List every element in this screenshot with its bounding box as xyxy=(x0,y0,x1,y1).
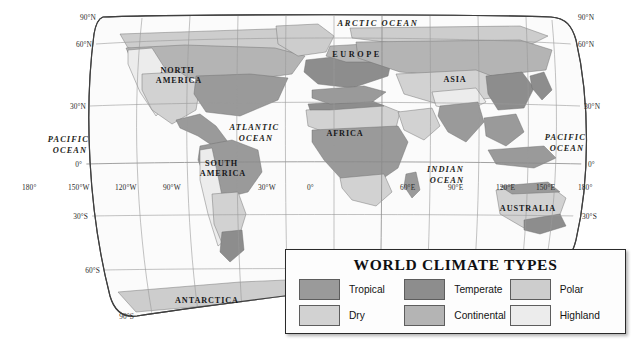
continent-label-north-america: NORTH AMERICA xyxy=(156,66,202,85)
ocean-label-arctic-ocean: ARCTIC OCEAN xyxy=(337,19,419,28)
legend-swatch-dry xyxy=(299,305,340,326)
legend-item-polar[interactable]: Polar xyxy=(510,279,615,300)
lat-label-30S-left: 30°S xyxy=(73,212,88,221)
lat-label-90S-left: 90°S xyxy=(119,312,134,321)
continent-label-south-america: SOUTH AMERICA xyxy=(200,159,246,178)
legend-title: WORLD CLIMATE TYPES xyxy=(286,256,625,274)
legend-items: Tropical Temperate Polar Dry Continental xyxy=(286,279,625,326)
lat-label-30S-right: 30°S xyxy=(582,212,597,221)
ocean-label-pacific-ocean-west: PACIFIC OCEAN xyxy=(48,135,92,155)
legend-label-polar: Polar xyxy=(560,284,584,295)
lon-label-150W: 150°W xyxy=(68,183,90,192)
lon-label-120W: 120°W xyxy=(115,183,137,192)
lon-label-120E: 120°E xyxy=(496,183,515,192)
land-new-zealand xyxy=(582,220,598,242)
lon-label-90W: 90°W xyxy=(163,183,181,192)
lat-label-60S-left: 60°S xyxy=(85,266,100,275)
legend-item-dry[interactable]: Dry xyxy=(299,305,404,326)
lon-label-0: 0° xyxy=(307,183,314,192)
lat-label-90N-left: 90°N xyxy=(80,13,97,22)
lon-label-150E: 150°E xyxy=(536,183,555,192)
legend-label-highland: Highland xyxy=(560,310,600,321)
continent-label-australia: AUSTRALIA xyxy=(500,204,556,213)
legend-swatch-continental xyxy=(404,305,445,326)
lat-label-60N-left: 60°N xyxy=(76,40,93,49)
legend-item-highland[interactable]: Highland xyxy=(510,305,615,326)
lat-label-0-left: 0° xyxy=(75,160,82,169)
legend-item-temperate[interactable]: Temperate xyxy=(404,279,509,300)
lat-label-90N-right: 90°N xyxy=(578,13,595,22)
lon-label-180-left: 180° xyxy=(22,183,36,192)
lon-label-180-right: 180° xyxy=(578,183,592,192)
lon-label-60E: 60°E xyxy=(400,183,416,192)
legend-swatch-tropical xyxy=(299,279,340,300)
lat-label-0-right: 0° xyxy=(588,160,595,169)
continent-label-antarctica: ANTARCTICA xyxy=(175,296,239,305)
continent-label-europe: EUROPE xyxy=(332,50,382,59)
legend-item-tropical[interactable]: Tropical xyxy=(299,279,404,300)
legend-swatch-polar xyxy=(510,279,551,300)
legend-item-continental[interactable]: Continental xyxy=(404,305,509,326)
map-legend: WORLD CLIMATE TYPES Tropical Temperate P… xyxy=(285,249,626,334)
continent-label-asia: ASIA xyxy=(443,75,466,84)
legend-label-tropical: Tropical xyxy=(349,284,385,295)
lon-label-30W: 30°W xyxy=(258,183,276,192)
legend-label-dry: Dry xyxy=(349,310,365,321)
legend-label-continental: Continental xyxy=(454,310,506,321)
legend-label-temperate: Temperate xyxy=(454,284,502,295)
world-climate-map-page: 90°N 60°N 30°N 0° 30°S 60°S 90°S 90°N 60… xyxy=(0,0,641,343)
lat-label-30N-right: 30°N xyxy=(584,102,601,111)
continent-label-africa: AFRICA xyxy=(326,129,363,138)
legend-swatch-highland xyxy=(510,305,551,326)
lat-label-60N-right: 60°N xyxy=(578,40,595,49)
lat-label-30N-left: 30°N xyxy=(70,102,87,111)
legend-swatch-temperate xyxy=(404,279,445,300)
